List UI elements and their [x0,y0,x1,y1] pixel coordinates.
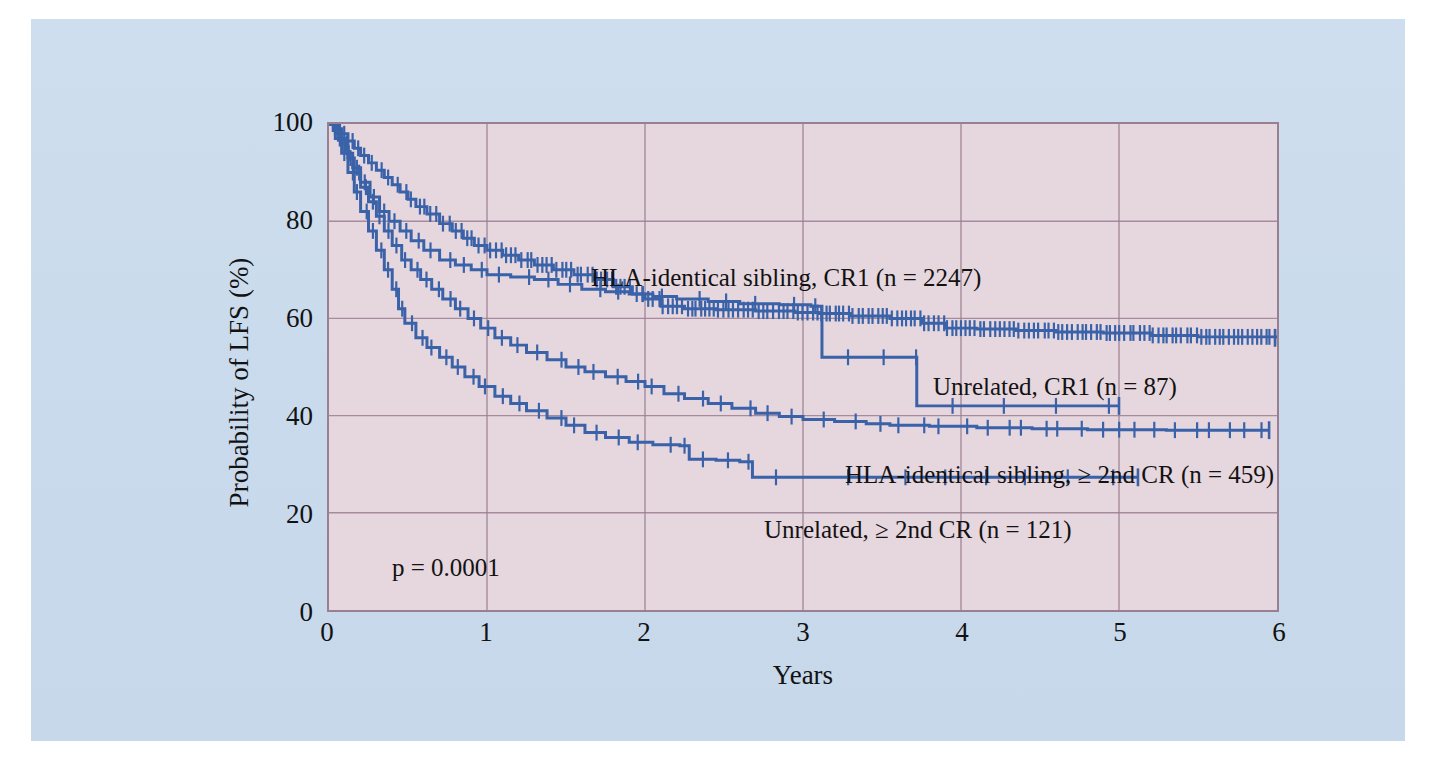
curve-label-unrelated-2nd-cr: Unrelated, ≥ 2nd CR (n = 121) [764,517,1072,542]
y-tick-100: 100 [273,109,314,136]
x-tick-4: 4 [955,619,969,646]
figure-root: Probability of LFS (%) 100 80 60 40 20 0… [0,0,1439,765]
y-tick-60: 60 [286,305,313,332]
slide-panel: Probability of LFS (%) 100 80 60 40 20 0… [31,19,1405,741]
p-value-annotation: p = 0.0001 [392,555,500,580]
y-tick-0: 0 [300,599,314,626]
x-tick-3: 3 [796,619,810,646]
plot-area: HLA-identical sibling, CR1 (n = 2247) Un… [327,122,1279,612]
curve-label-sibling-2nd-cr: HLA-identical sibling, ≥ 2nd CR (n = 459… [845,462,1274,487]
x-tick-2: 2 [637,619,651,646]
y-tick-80: 80 [286,207,313,234]
x-tick-5: 5 [1113,619,1127,646]
x-axis-tick-labels: 0 1 2 3 4 5 6 [327,619,1279,659]
x-tick-1: 1 [479,619,493,646]
curve-label-sibling-cr1: HLA-identical sibling, CR1 (n = 2247) [591,265,981,290]
y-tick-20: 20 [286,501,313,528]
y-tick-40: 40 [286,403,313,430]
x-tick-0: 0 [320,619,334,646]
y-axis-tick-labels: 100 80 60 40 20 0 [245,122,313,612]
curve-label-unrelated-cr1: Unrelated, CR1 (n = 87) [933,374,1177,399]
x-tick-6: 6 [1272,619,1286,646]
x-axis-title: Years [327,660,1279,691]
